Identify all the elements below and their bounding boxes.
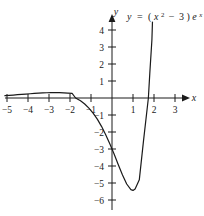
equation-minus: − [169,11,175,22]
y-tick-label: −4 [94,162,104,172]
y-axis [109,14,116,210]
x-tick-label: 2 [152,105,157,115]
x-axis-arrowhead [182,95,190,102]
equation-exponent: 2 [161,11,165,18]
equation-constant: 3 [179,11,184,22]
x-tick-label: −2 [65,105,75,115]
x-tick-label: −3 [44,105,54,115]
x-axis [5,95,190,102]
x-tick-label: −4 [23,105,33,115]
x-tick-label: −5 [2,105,12,115]
equation-e-exponent: x [198,11,202,18]
function-plot: −5 −4 −3 −2 −1 1 2 3 4 3 2 1 −1 −2 −3 −4… [0,0,204,216]
y-tick-label: 3 [99,43,104,53]
y-tick-label: −5 [94,179,104,189]
y-tick-label: 1 [99,77,104,87]
x-tick-label: 3 [173,105,178,115]
equation-equals: = [137,11,143,22]
y-tick-label: −3 [94,145,104,155]
equation-close-paren: ) [186,11,189,23]
equation-label: y = ( x 2 − 3 ) e x [126,8,202,23]
equation-base: x [153,11,159,22]
equation-open-paren: ( [148,11,152,23]
x-tick-label: 1 [131,105,136,115]
y-tick-label: −6 [94,196,104,206]
y-tick-label: 4 [99,26,104,36]
equation-lhs: y [126,11,132,22]
y-tick-label: 2 [99,60,104,70]
equation-e: e [192,11,197,22]
x-axis-label: x [191,92,197,103]
y-axis-label: y [113,6,119,17]
graph-figure: −5 −4 −3 −2 −1 1 2 3 4 3 2 1 −1 −2 −3 −4… [0,0,204,216]
